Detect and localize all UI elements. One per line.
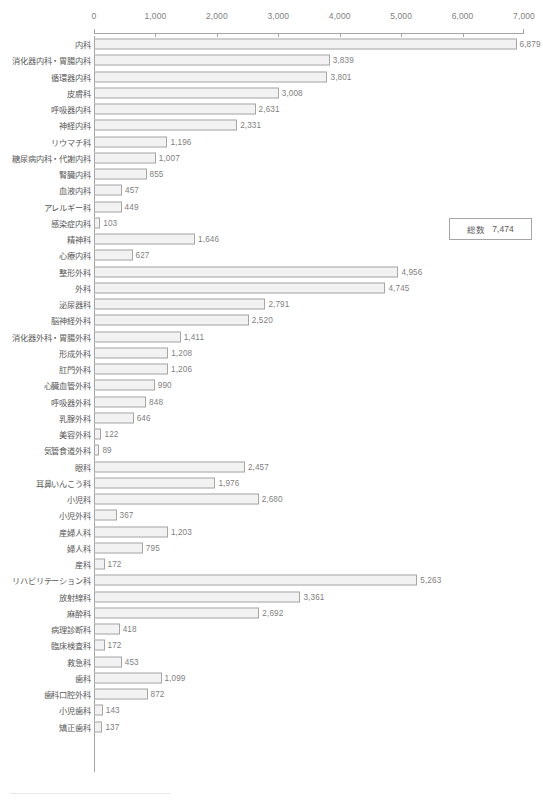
chart-row: 小児科2,680: [0, 491, 543, 507]
x-axis: 01,0002,0003,0004,0005,0006,0007,000: [0, 0, 543, 36]
bar-value-label: 6,879: [520, 40, 541, 49]
chart-row: 産婦人科1,203: [0, 524, 543, 540]
category-label: 産婦人科: [59, 526, 91, 538]
bar-value-label: 137: [105, 722, 119, 731]
x-axis-tick-label: 7,000: [513, 11, 535, 21]
bar: [94, 169, 147, 180]
bar: [94, 591, 300, 602]
bar-value-label: 4,745: [388, 283, 409, 292]
category-label: 歯科口腔外科: [44, 688, 91, 700]
chart-row: リハビリテーション科5,263: [0, 572, 543, 588]
chart-row: 放射線科3,361: [0, 589, 543, 605]
bar-value-label: 89: [102, 446, 111, 455]
category-label: アレルギー科: [44, 201, 91, 213]
category-label: 形成外科: [59, 347, 91, 359]
bar: [94, 705, 103, 716]
bar: [94, 104, 256, 115]
bar: [94, 71, 327, 82]
bar: [94, 721, 102, 732]
chart-row: アレルギー科449: [0, 199, 543, 215]
bar-value-label: 2,680: [262, 495, 283, 504]
bar-value-label: 2,631: [259, 105, 280, 114]
category-label: 呼吸器外科: [51, 396, 91, 408]
bar: [94, 429, 101, 440]
chart-row: 麻酔科2,692: [0, 605, 543, 621]
bar: [94, 201, 122, 212]
bar-value-label: 172: [108, 641, 122, 650]
bar-value-label: 122: [104, 430, 118, 439]
bar-value-label: 2,457: [248, 462, 269, 471]
bar-value-label: 1,646: [198, 235, 219, 244]
bar: [94, 672, 162, 683]
bar: [94, 412, 134, 423]
bar: [94, 575, 417, 586]
bar-value-label: 627: [136, 251, 150, 260]
chart-row: リウマチ科1,196: [0, 134, 543, 150]
category-label: 眼科: [75, 461, 91, 473]
x-axis-line: [94, 33, 524, 34]
chart-row: 歯科1,099: [0, 670, 543, 686]
bar: [94, 396, 146, 407]
bar: [94, 282, 385, 293]
bar-value-label: 990: [158, 381, 172, 390]
bar-value-label: 1,976: [218, 478, 239, 487]
category-label: 循環器内科: [51, 71, 91, 83]
chart-row: 婦人科795: [0, 540, 543, 556]
chart-row: 肛門外科1,206: [0, 361, 543, 377]
category-label: 歯科: [75, 672, 91, 684]
bar-value-label: 3,008: [282, 88, 303, 97]
chart-row: 形成外科1,208: [0, 345, 543, 361]
bar: [94, 526, 168, 537]
category-label: 救急科: [67, 656, 91, 668]
bar-value-label: 795: [146, 543, 160, 552]
bar: [94, 624, 120, 635]
category-label: 肛門外科: [59, 363, 91, 375]
chart-row: 歯科口腔外科872: [0, 686, 543, 702]
category-label: 消化器外科・胃腸外科: [12, 331, 91, 343]
bar-value-label: 1,203: [171, 527, 192, 536]
bar: [94, 640, 105, 651]
bar: [94, 152, 156, 163]
bar-value-label: 1,208: [171, 348, 192, 357]
bar: [94, 87, 279, 98]
x-axis-tick-label: 4,000: [329, 11, 351, 21]
bar: [94, 217, 100, 228]
bar-value-label: 453: [125, 657, 139, 666]
bar-value-label: 4,956: [401, 267, 422, 276]
total-value: 7,474: [492, 224, 513, 234]
chart-row: 臨床検査科172: [0, 637, 543, 653]
bar: [94, 689, 148, 700]
chart-row: 消化器内科・胃腸内科3,839: [0, 52, 543, 68]
bar-value-label: 2,520: [252, 316, 273, 325]
x-axis-tick-label: 1,000: [145, 11, 167, 21]
bar: [94, 39, 517, 50]
chart-row: 心臓血管外科990: [0, 377, 543, 393]
bar: [94, 364, 168, 375]
category-label: 耳鼻いんこう科: [36, 477, 91, 489]
category-label: 神経内科: [59, 119, 91, 131]
bar-value-label: 2,791: [268, 300, 289, 309]
category-label: 脳神経外科: [51, 314, 91, 326]
chart-row: 救急科453: [0, 654, 543, 670]
bar: [94, 234, 195, 245]
chart-row: 美容外科122: [0, 426, 543, 442]
category-label: 小児歯科: [59, 704, 91, 716]
bar: [94, 347, 168, 358]
chart-row: 呼吸器外科848: [0, 394, 543, 410]
total-label: 総数: [467, 223, 485, 235]
bar: [94, 380, 155, 391]
bar: [94, 315, 249, 326]
x-axis-tick-label: 0: [92, 11, 97, 21]
bar-value-label: 367: [120, 511, 134, 520]
category-label: 放射線科: [59, 591, 91, 603]
category-label: 美容外科: [59, 428, 91, 440]
bar-value-label: 3,801: [330, 72, 351, 81]
category-label: 内科: [75, 38, 91, 50]
bar: [94, 542, 143, 553]
chart-row: 病理診断科418: [0, 621, 543, 637]
chart-row: 眼科2,457: [0, 459, 543, 475]
bottom-divider: [10, 793, 170, 794]
bar: [94, 266, 398, 277]
bar-value-label: 449: [125, 202, 139, 211]
chart-row: 消化器外科・胃腸外科1,411: [0, 329, 543, 345]
